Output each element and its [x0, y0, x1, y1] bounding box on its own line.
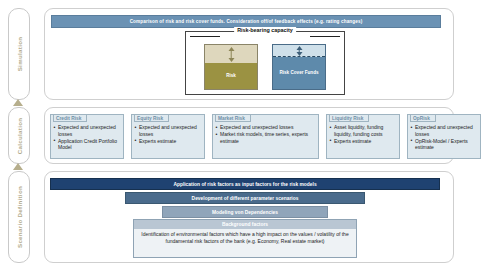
- risk-card-credit-risk[interactable]: Credit Risk Expected and unexpected loss…: [50, 114, 124, 159]
- risk-headroom-arrow: [228, 47, 235, 62]
- list-item: Expected and unexpected losses: [415, 124, 478, 137]
- rail-segment-calculation: Calculation: [8, 107, 30, 164]
- risk-bearing-capacity-group: Risk-bearing capacity Risk Risk Cover Fu…: [185, 31, 345, 95]
- simulation-panel: Comparison of risk and risk cover funds.…: [44, 8, 454, 100]
- risk-card-title-equity-risk: Equity Risk: [134, 114, 169, 122]
- rbc-rule-left: [190, 36, 220, 37]
- background-factors-title: Background factors: [134, 220, 356, 229]
- list-item: Application Credit Portfolio Model: [58, 138, 121, 151]
- scenario-definition-panel: Application of risk factors as input fac…: [44, 171, 454, 263]
- list-item: Expected and unexpected losses: [220, 124, 316, 131]
- rail-arrow-upper: [13, 99, 23, 106]
- list-item: Market risk models, time series, experts…: [220, 131, 316, 144]
- list-item: OpRisk-Model / Experts estimate: [415, 138, 478, 151]
- rail-label-calculation: Calculation: [16, 117, 23, 154]
- risk-card-title-oprisk: OpRisk: [410, 114, 436, 122]
- list-item: Experts estimate: [139, 138, 202, 145]
- rail-label-simulation: Simulation: [16, 37, 23, 72]
- risk-card-equity-risk[interactable]: Equity Risk Expected and unexpected loss…: [131, 114, 205, 159]
- calculation-panel: Credit Risk Expected and unexpected loss…: [44, 107, 454, 164]
- scenario-bar-application-of-risk-factors: Application of risk factors as input fac…: [50, 178, 440, 190]
- rail-segment-scenario-definition: Scenario Definition: [8, 171, 30, 263]
- rail-arrow-lower: [13, 163, 23, 170]
- list-item: Expected and unexpected losses: [139, 124, 202, 137]
- risk-cover-funds-label: Risk Cover Funds: [273, 57, 325, 89]
- risk-cover-funds-column: Risk Cover Funds: [272, 44, 326, 90]
- risk-card-title-credit-risk: Credit Risk: [53, 114, 87, 122]
- rail-segment-simulation: Simulation: [8, 8, 30, 100]
- risk-card-liquidity-risk[interactable]: Liquidity Risk Asset liquidity, funding …: [326, 114, 400, 159]
- scenario-bar-modeling-dependencies: Modeling von Dependencies: [162, 206, 328, 218]
- risk-card-title-market-risk: Market Risk: [215, 114, 251, 122]
- background-factors-box: Background factors Identification of env…: [133, 219, 357, 258]
- risk-cover-funds-arrow: [296, 46, 303, 56]
- risk-card-market-risk[interactable]: Market Risk Expected and unexpected loss…: [212, 114, 319, 159]
- rail-label-scenario-definition: Scenario Definition: [16, 186, 23, 248]
- risk-column: Risk: [204, 44, 258, 90]
- risk-card-title-liquidity-risk: Liquidity Risk: [329, 114, 369, 122]
- risk-column-label: Risk: [205, 63, 257, 89]
- scenario-bar-parameter-scenarios: Development of different parameter scena…: [125, 192, 365, 204]
- list-item: Expected and unexpected losses: [58, 124, 121, 137]
- list-item: Asset liquidity, funding liquidity, fund…: [334, 124, 397, 137]
- list-item: Experts estimate: [334, 138, 397, 145]
- risk-card-oprisk[interactable]: OpRisk Expected and unexpected losses Op…: [407, 114, 481, 159]
- risk-bearing-capacity-title: Risk-bearing capacity: [234, 27, 296, 33]
- rbc-rule-right: [310, 36, 340, 37]
- background-factors-text: Identification of environmental factors …: [137, 231, 353, 256]
